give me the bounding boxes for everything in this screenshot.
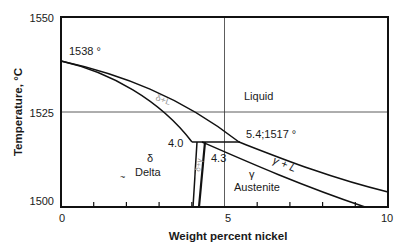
gamma-symbol: γ [249,168,255,180]
y-tick-1525: 1525 [30,107,54,119]
y-axis-title: Temperature, °C [12,68,24,156]
composition-4-3-label: 4.3 [211,152,226,164]
x-tick-10: 10 [381,212,393,224]
stray-mark: ~ [120,172,125,182]
x-tick-5: 5 [225,212,231,224]
delta-boundary-line [193,142,197,207]
delta-region-label: Delta [135,166,162,178]
delta-symbol: δ [147,152,153,164]
peritectic-label: 5.4;1517 ° [246,128,296,140]
austenite-region-label: Austenite [234,181,280,193]
gamma-boundary-line [199,142,205,207]
x-tick-0: 0 [59,212,65,224]
melting-point-label: 1538 ° [69,45,101,57]
delta-liquid-label: δ+L [154,92,172,107]
x-axis-title: Weight percent nickel [169,230,288,242]
gamma-liquid-label: γ + L [271,154,298,174]
liquid-region-label: Liquid [244,90,273,102]
delta-solidus-line [61,61,192,142]
gamma-solidus-line [202,142,365,207]
y-tick-1550: 1550 [30,12,54,24]
phase-diagram: 1550 1525 1500 0 5 10 Weight percent nic… [0,0,408,248]
composition-4-0-label: 4.0 [168,137,183,149]
y-tick-1500: 1500 [30,195,54,207]
